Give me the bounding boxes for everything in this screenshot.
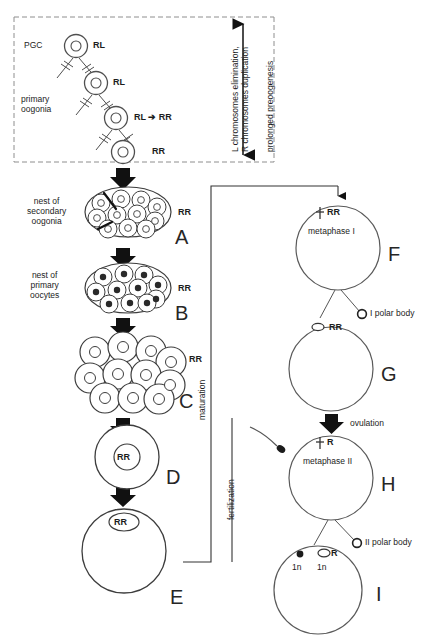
prolonged-preoogenesis-label: prolonged preoogenesis (265, 61, 275, 152)
ovulation-label: ovulation (350, 418, 384, 428)
oogonium-3-genotype: RR (152, 146, 165, 157)
female-pronucleus-icon (318, 549, 330, 557)
stage-c-cluster (75, 332, 186, 414)
stage-letter-f: F (388, 243, 400, 267)
oogenesis-diagram: PGC primary oogonia RL RL RL ➔ RR RR L c… (0, 0, 423, 643)
stage-i-ploidy-right: 1n (317, 562, 326, 572)
pgc-genotype: RL (93, 40, 105, 51)
sperm-icon (250, 427, 287, 454)
polar-body-2-label: II polar body (365, 537, 412, 547)
stage-a-nest (85, 187, 171, 238)
stage-i-genotype: R (331, 548, 338, 559)
fertilization-label: fertilization (226, 479, 236, 520)
nest-primary-oocytes-label: nest of primary oocytes (30, 270, 59, 300)
nest-secondary-oogonia-label: nest of secondary oogonia (27, 196, 66, 226)
primary-oogonia-label: primary oogonia (21, 94, 51, 114)
oogonium-1-genotype: RL (113, 77, 125, 88)
stage-f-genotype: RR (327, 207, 340, 218)
stage-c-genotype: RR (189, 354, 202, 365)
stage-letter-b: B (175, 302, 188, 326)
stage-b-nest (85, 263, 171, 313)
stage-g-oocyte (289, 323, 373, 411)
stage-letter-i: I (376, 583, 382, 607)
stage-h-phase: metaphase II (303, 456, 352, 466)
stage-letter-h: H (381, 473, 395, 497)
stage-letter-d: D (166, 466, 180, 490)
pgc-lineage (57, 35, 135, 164)
maturation-label: maturation (197, 380, 207, 420)
stage-i-zygote (274, 546, 362, 634)
stage-h-genotype: R (327, 437, 334, 448)
polar-body-1-label: I polar body (370, 308, 414, 318)
stage-f-phase: metaphase I (308, 226, 355, 236)
ovulation-arrow (319, 414, 344, 434)
oogonium-2-genotype: RL ➔ RR (134, 112, 172, 123)
polar-body-fork-1 (320, 290, 360, 318)
stage-letter-e: E (170, 586, 183, 610)
stage-i-ploidy-left: 1n (292, 562, 301, 572)
stage-d-genotype: RR (117, 452, 130, 463)
diagram-canvas (0, 0, 423, 643)
stage-a-genotype: RR (178, 207, 191, 218)
stage-e-genotype: RR (114, 517, 127, 528)
polar-body-fork-2 (314, 520, 355, 545)
stage-letter-c: C (179, 390, 193, 414)
chromosome-elimination-label: L chromosomes elimination, R chromosomes… (230, 46, 250, 152)
male-pronucleus-icon (297, 551, 304, 558)
polar-body-2-icon (353, 539, 362, 548)
pgc-label: PGC (24, 40, 42, 50)
stage-g-genotype: RR (329, 322, 342, 333)
stage-letter-a: A (175, 226, 188, 250)
stage-letter-g: G (381, 363, 397, 387)
stage-h-oocyte (289, 436, 373, 520)
polar-body-1-icon (358, 310, 367, 319)
stage-f-oocyte (296, 206, 380, 290)
stage-b-genotype: RR (178, 283, 191, 294)
